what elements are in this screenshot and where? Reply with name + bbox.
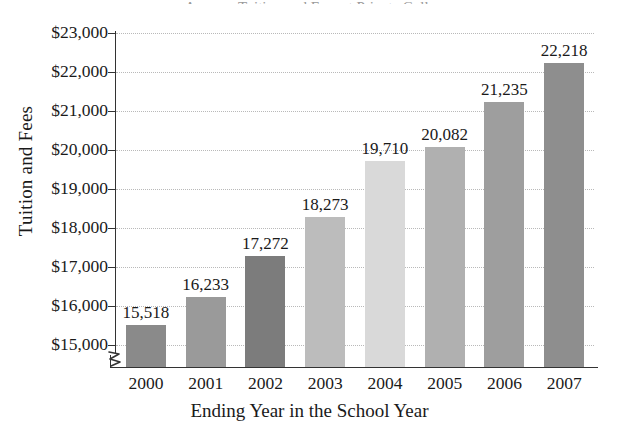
y-axis-title: Tuition and Fees bbox=[15, 61, 37, 281]
x-axis-line bbox=[110, 367, 598, 368]
y-axis-tick-label: $15,000 bbox=[16, 336, 108, 354]
y-axis-tick bbox=[108, 33, 116, 34]
y-axis-tick-label: $16,000 bbox=[16, 297, 108, 315]
y-axis-tick bbox=[108, 228, 116, 229]
x-axis-tick-label: 2007 bbox=[529, 373, 599, 393]
bar-value-label: 21,235 bbox=[461, 81, 547, 99]
y-axis-tick-label: $19,000 bbox=[16, 180, 108, 198]
x-axis-title: Ending Year in the School Year bbox=[0, 400, 619, 421]
bar-value-label: 16,233 bbox=[163, 276, 249, 294]
y-axis-line bbox=[115, 31, 116, 353]
gridline bbox=[116, 72, 594, 73]
bar[interactable] bbox=[365, 161, 405, 367]
y-axis-tick-label: $21,000 bbox=[16, 102, 108, 120]
y-axis-tick bbox=[108, 189, 116, 190]
y-axis-tick bbox=[108, 345, 116, 346]
bar[interactable] bbox=[126, 325, 166, 367]
bar[interactable] bbox=[425, 147, 465, 367]
y-axis-tick bbox=[108, 150, 116, 151]
chart-title-remnant: Average Tuition and Fees at Private Coll… bbox=[170, 0, 470, 4]
bar-chart: Average Tuition and Fees at Private Coll… bbox=[0, 0, 619, 429]
bar[interactable] bbox=[186, 297, 226, 367]
y-axis-tick bbox=[108, 306, 116, 307]
bar-value-label: 17,272 bbox=[222, 235, 308, 253]
bar[interactable] bbox=[245, 256, 285, 367]
bar-value-label: 20,082 bbox=[402, 126, 488, 144]
y-axis-tick-label: $22,000 bbox=[16, 63, 108, 81]
y-axis-tick-label: $20,000 bbox=[16, 141, 108, 159]
bar[interactable] bbox=[305, 217, 345, 367]
plot-area: 15,51816,23317,27218,27319,71020,08221,2… bbox=[116, 33, 594, 345]
y-axis-tick-label: $18,000 bbox=[16, 219, 108, 237]
bar-value-label: 22,218 bbox=[521, 42, 607, 60]
bar-value-label: 18,273 bbox=[282, 196, 368, 214]
y-axis-tick bbox=[108, 72, 116, 73]
gridline bbox=[116, 33, 594, 34]
y-axis-tick bbox=[108, 267, 116, 268]
y-axis-tick-label: $17,000 bbox=[16, 258, 108, 276]
bar[interactable] bbox=[544, 63, 584, 367]
y-axis-tick-label: $23,000 bbox=[16, 24, 108, 42]
bar[interactable] bbox=[484, 102, 524, 367]
y-axis-tick bbox=[108, 111, 116, 112]
